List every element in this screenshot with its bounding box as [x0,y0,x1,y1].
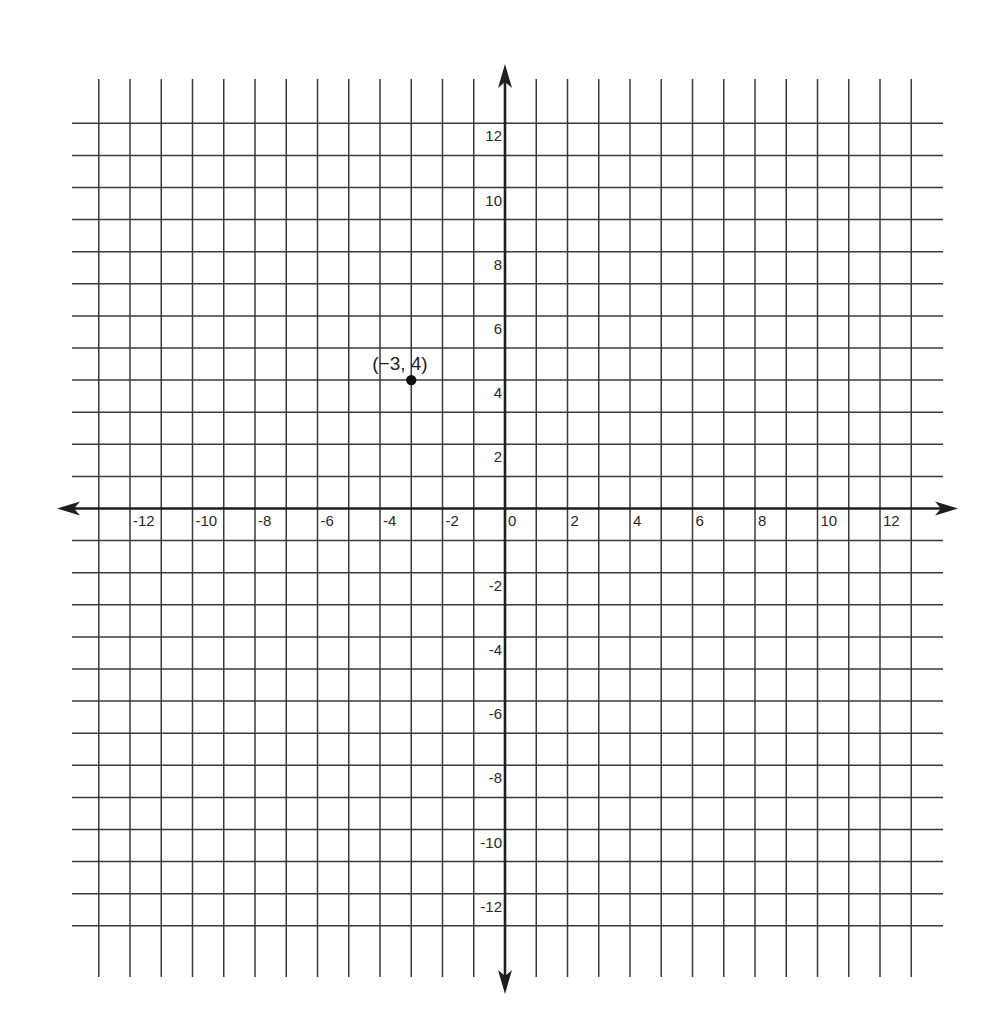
y-tick-label: -2 [489,577,502,594]
y-tick-label: 10 [485,192,502,209]
x-tick-label: 2 [571,512,579,529]
y-tick-label: 12 [485,127,502,144]
point-label: (−3, 4) [372,353,427,374]
x-tick-label: 8 [758,512,766,529]
x-tick-label: -8 [258,512,271,529]
x-tick-label: -12 [133,512,155,529]
x-tick-label: 0 [508,512,516,529]
x-tick-label: 12 [883,512,900,529]
x-tick-label: 10 [821,512,838,529]
x-tick-label: -4 [383,512,396,529]
x-tick-label: 6 [696,512,704,529]
y-tick-label: 4 [494,384,502,401]
y-tick-label: 8 [494,256,502,273]
y-tick-label: -4 [489,641,502,658]
y-tick-label: -12 [480,898,502,915]
data-point [406,375,416,385]
y-tick-label: 6 [494,320,502,337]
x-tick-label: -6 [321,512,334,529]
x-tick-label: -10 [196,512,218,529]
coordinate-plane: -12-10-8-6-4-2024681012 12108642-2-4-6-8… [0,0,1000,1029]
y-tick-label: -6 [489,705,502,722]
y-tick-label: -10 [480,834,502,851]
y-tick-label: 2 [494,448,502,465]
x-tick-labels: -12-10-8-6-4-2024681012 [133,512,900,529]
y-tick-label: -8 [489,769,502,786]
x-tick-label: -2 [446,512,459,529]
x-tick-label: 4 [633,512,641,529]
y-tick-labels: 12108642-2-4-6-8-10-12 [480,127,502,914]
